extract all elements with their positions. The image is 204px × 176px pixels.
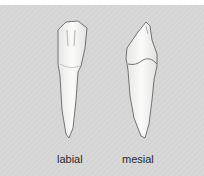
mesial-tooth [126, 22, 157, 138]
labial-tooth [58, 21, 87, 138]
label-mesial: mesial [122, 153, 154, 165]
label-labial: labial [57, 153, 83, 165]
teeth-illustration [0, 0, 204, 176]
